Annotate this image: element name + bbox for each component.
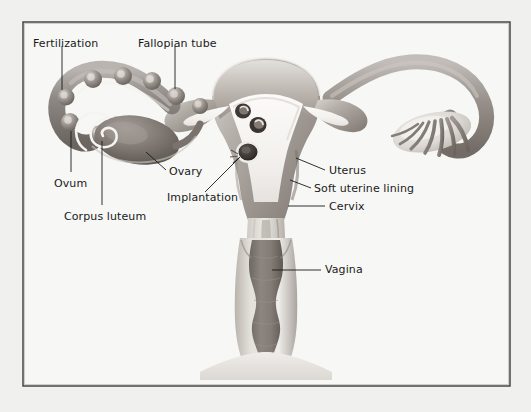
- anatomy-illustration: [0, 0, 531, 412]
- label-vagina: Vagina: [325, 264, 363, 276]
- label-uterus: Uterus: [329, 165, 366, 177]
- label-soft-uterine-lining: Soft uterine lining: [314, 183, 414, 195]
- label-ovum: Ovum: [54, 178, 87, 190]
- label-cervix: Cervix: [329, 201, 365, 213]
- label-fallopian-tube: Fallopian tube: [138, 38, 217, 50]
- label-ovary: Ovary: [169, 166, 202, 178]
- label-implantation: Implantation: [167, 192, 238, 204]
- label-corpus-luteum: Corpus luteum: [64, 211, 146, 223]
- label-fertilization: Fertilization: [33, 38, 98, 50]
